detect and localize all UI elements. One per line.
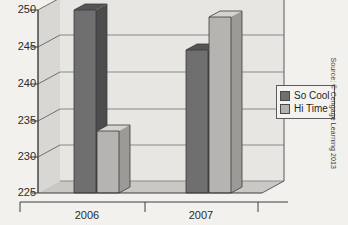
bar-2006-hi-time [97,125,130,193]
legend-label-hi-time: Hi Time [294,104,328,114]
chart-screenshot: 250 245 240 235 230 225 2006 2007 So Coo… [0,0,348,225]
bar-front-face [209,17,231,193]
legend-entry-so-cool: So Cool [280,89,330,102]
x-axis-label-2006: 2006 [62,210,112,221]
y-axis-label-245: 245 [2,41,36,52]
bar-chart: 250 245 240 235 230 225 2006 2007 So Coo… [0,0,348,225]
x-axis-label-2007: 2007 [176,210,226,221]
y-axis-label-225: 225 [2,187,36,198]
y-axis-label-235: 235 [2,115,36,126]
bar-front-face [186,50,208,193]
source-credit: Source: © Cengage Learning 2013 [330,58,337,162]
y-axis-label-230: 230 [2,151,36,162]
plot-left-wall [38,0,60,193]
y-axis-labels: 250 245 240 235 230 225 [2,0,36,225]
bar-front-face [74,10,96,193]
legend-swatch-so-cool-icon [280,91,290,101]
legend-swatch-hi-time-icon [280,104,290,114]
chart-legend: So Cool Hi Time [276,85,335,119]
bar-side-face [119,125,130,193]
legend-label-so-cool: So Cool [294,91,330,101]
y-axis-label-240: 240 [2,78,36,89]
y-axis-label-250: 250 [2,4,36,15]
bar-side-face [231,11,242,193]
bar-front-face [97,131,119,193]
bar-2007-hi-time [209,11,242,193]
legend-entry-hi-time: Hi Time [280,102,330,115]
